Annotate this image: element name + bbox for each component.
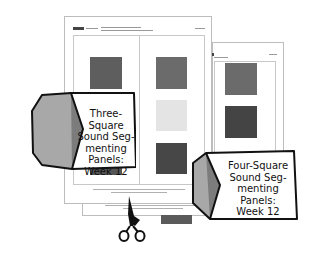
label-line-2: Sound Seg- (76, 131, 136, 143)
page-header-badge (73, 27, 84, 30)
scissors-icon (118, 196, 148, 244)
label-line-4: Week 12 (220, 206, 296, 218)
label-line-1: Four-Square (220, 160, 296, 172)
right-column-square-2 (156, 100, 187, 131)
page-footer-text (93, 189, 185, 190)
page-header-label (86, 28, 98, 29)
label-line-4: Week 12 (76, 166, 136, 178)
three-square-label: Three-Square Sound Seg- menting Panels: … (30, 91, 136, 171)
right-column-square-1 (156, 57, 187, 89)
panel-square-1 (225, 63, 257, 95)
three-square-label-text: Three-Square Sound Seg- menting Panels: … (76, 108, 136, 177)
panel-square-bottom (161, 215, 192, 224)
page-header-text (214, 57, 228, 58)
label-line-3: menting Panels: (76, 143, 136, 166)
page-footer-text (111, 192, 167, 193)
label-line-1: Three-Square (76, 108, 136, 131)
label-line-2: Sound Seg- (220, 172, 296, 184)
four-square-label: Four-Square Sound Seg- menting Panels: W… (190, 149, 298, 221)
page-number (269, 54, 277, 55)
page-number (195, 28, 205, 29)
left-column-square-1 (90, 57, 122, 89)
right-column-square-3 (156, 143, 187, 174)
page-header-title (101, 27, 141, 28)
four-square-label-text: Four-Square Sound Seg- menting Panels: W… (220, 160, 296, 218)
label-line-3: menting Panels: (220, 183, 296, 206)
panel-square-2 (225, 106, 257, 138)
panel-divider (139, 35, 140, 185)
page-header-subtitle (101, 30, 153, 31)
